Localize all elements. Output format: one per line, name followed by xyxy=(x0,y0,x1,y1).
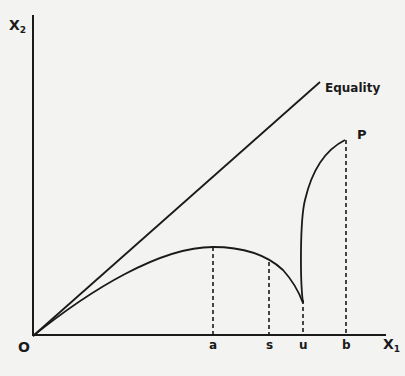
diagram-canvas: X2 X1 O Equality P a s u b xyxy=(0,0,405,376)
curve-upper xyxy=(301,140,345,303)
curve-lower xyxy=(33,247,303,336)
origin-label: O xyxy=(18,339,30,355)
tick-label-b: b xyxy=(342,338,351,352)
tick-label-u: u xyxy=(299,338,308,352)
x-axis-label: X1 xyxy=(383,336,400,354)
equality-label: Equality xyxy=(325,81,380,95)
y-axis-label: X2 xyxy=(9,17,26,35)
equality-line xyxy=(33,82,320,336)
point-p-label: P xyxy=(357,127,367,142)
tick-label-s: s xyxy=(266,338,273,352)
tick-label-a: a xyxy=(209,338,217,352)
